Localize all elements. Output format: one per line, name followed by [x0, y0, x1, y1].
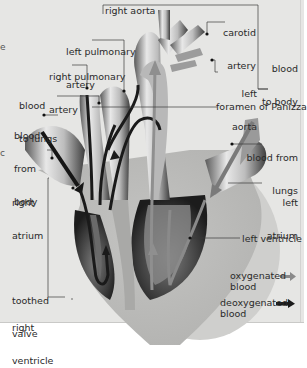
label-right-pulmonary-artery: right pulmonary artery — [49, 49, 125, 126]
label-left-ventricle: left ventricle — [242, 233, 302, 244]
legend-oxygenated: oxygenated blood — [230, 270, 286, 292]
edge-glyph: e — [0, 42, 6, 52]
label-right-atrium: right atrium — [12, 175, 43, 252]
edge-glyph: c — [0, 148, 5, 158]
legend-deoxygenated: deoxygenated blood — [220, 297, 288, 319]
label-right-ventricle: right ventricle — [12, 300, 53, 368]
label-foramen-of-panizza: foramen of Panizza — [216, 101, 307, 112]
label-right-aorta: right aorta — [105, 5, 155, 16]
